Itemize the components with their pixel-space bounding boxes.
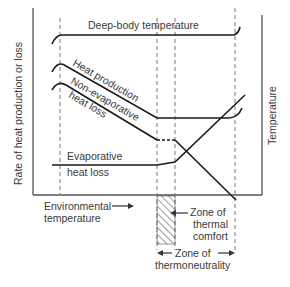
evaporative-label-2: heat loss <box>67 166 109 178</box>
comfort-label-3: comfort <box>193 230 228 242</box>
right-axis-label: Temperature <box>266 86 278 145</box>
comfort-label-2: thermal <box>193 218 228 230</box>
left-axis-label: Rate of heat production or loss <box>12 42 24 185</box>
thermal-comfort-hatch <box>157 196 175 244</box>
x-axis-label-2: temperature <box>44 212 101 224</box>
x-axis-label-1: Environmental <box>44 200 111 212</box>
thermoneutrality-label-1: Zone of <box>175 247 211 259</box>
thermoneutrality-label-2: thermoneutrality <box>155 259 231 271</box>
evaporative-label-1: Evaporative <box>67 150 123 162</box>
deep-body-label: Deep-body temperature <box>88 19 199 31</box>
comfort-label-1: Zone of <box>190 206 226 218</box>
non-evaporative-decline <box>175 140 236 200</box>
thermoregulation-diagram: Deep-body temperature Heat production No… <box>0 0 290 287</box>
x-axis-arrow <box>112 203 134 209</box>
